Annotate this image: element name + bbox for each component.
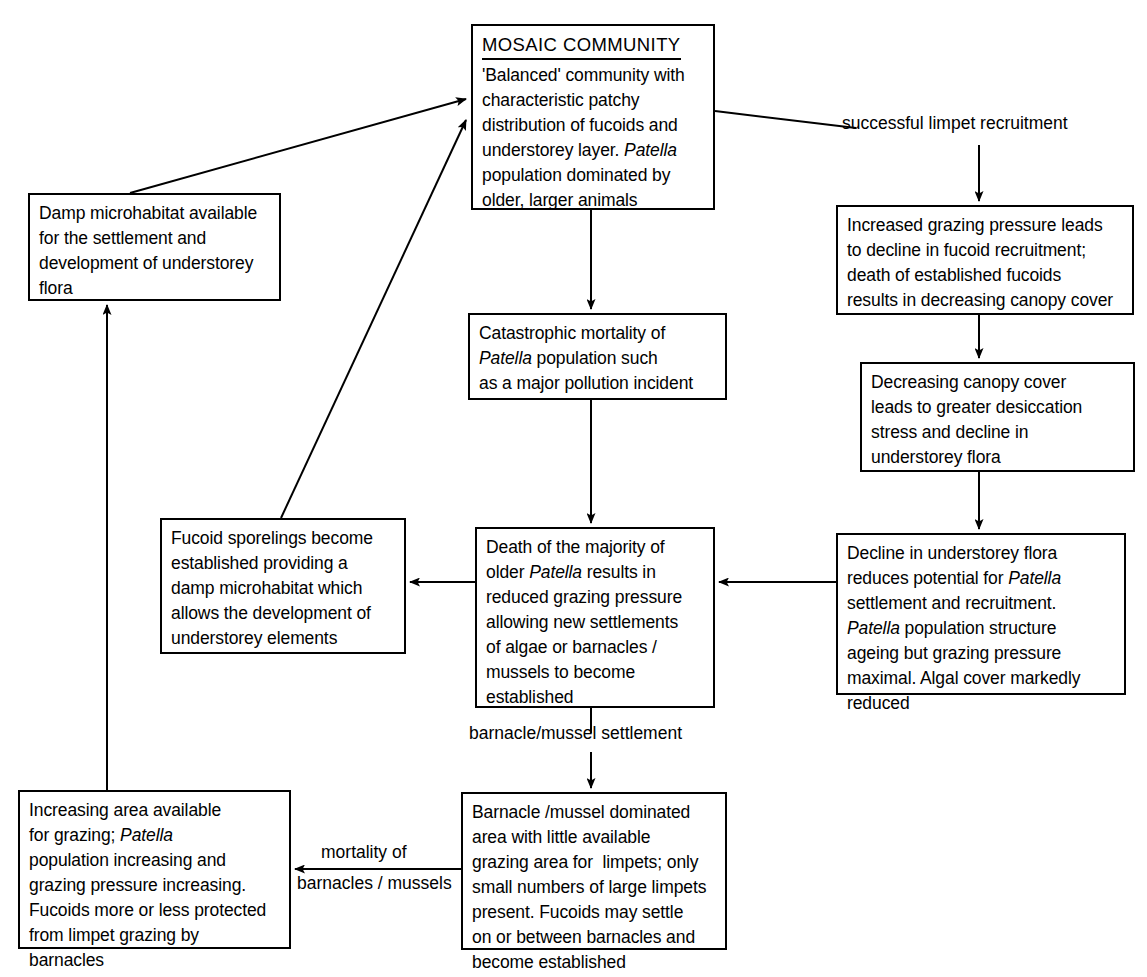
edge-fucoid-to-mosaic — [281, 120, 466, 518]
node-mosaic-body: 'Balanced' community withcharacteristic … — [482, 63, 704, 213]
flowchart-diagram: MOSAIC COMMUNITY 'Balanced' community wi… — [0, 0, 1147, 977]
node-increasing-area-available[interactable]: Increasing area availablefor grazing; Pa… — [18, 790, 291, 949]
node-damp-body: Damp microhabitat availablefor the settl… — [39, 201, 270, 301]
node-mosaic-community[interactable]: MOSAIC COMMUNITY 'Balanced' community wi… — [471, 24, 715, 210]
node-increased-grazing-pressure[interactable]: Increased grazing pressure leadsto decli… — [836, 205, 1134, 315]
edge-damp-to-mosaic — [130, 99, 466, 193]
node-decreasing-body: Decreasing canopy coverleads to greater … — [871, 370, 1124, 470]
node-barnacle-body: Barnacle /mussel dominatedarea with litt… — [472, 800, 716, 975]
edge-mosaic-to-recruitment — [715, 111, 856, 128]
node-barnacle-mussel-dominated[interactable]: Barnacle /mussel dominatedarea with litt… — [461, 792, 727, 950]
node-increased-body: Increased grazing pressure leadsto decli… — [847, 213, 1123, 313]
node-death-of-majority[interactable]: Death of the majority ofolder Patella re… — [475, 527, 715, 708]
edge-label-mortality-of: mortality of — [321, 841, 407, 864]
edge-label-barnacles-mussels: barnacles / mussels — [297, 872, 452, 895]
node-fucoid-sporelings[interactable]: Fucoid sporelings becomeestablished prov… — [160, 518, 406, 654]
node-decline-body: Decline in understorey florareduces pote… — [847, 541, 1115, 716]
node-catastrophic-body: Catastrophic mortality ofPatella populat… — [479, 321, 716, 396]
node-damp-microhabitat[interactable]: Damp microhabitat availablefor the settl… — [28, 193, 281, 301]
node-mosaic-header: MOSAIC COMMUNITY — [482, 32, 681, 60]
node-fucoid-body: Fucoid sporelings becomeestablished prov… — [171, 526, 395, 651]
node-death-body: Death of the majority ofolder Patella re… — [486, 535, 704, 710]
node-decline-understorey-flora[interactable]: Decline in understorey florareduces pote… — [836, 533, 1126, 695]
edge-label-barnacle-mussel-settlement: barnacle/mussel settlement — [469, 722, 682, 745]
node-catastrophic-mortality[interactable]: Catastrophic mortality ofPatella populat… — [468, 313, 727, 400]
node-increasing-body: Increasing area availablefor grazing; Pa… — [29, 798, 280, 973]
edge-label-successful-limpet-recruitment: successful limpet recruitment — [842, 112, 1068, 135]
node-decreasing-canopy-cover[interactable]: Decreasing canopy coverleads to greater … — [860, 362, 1135, 472]
